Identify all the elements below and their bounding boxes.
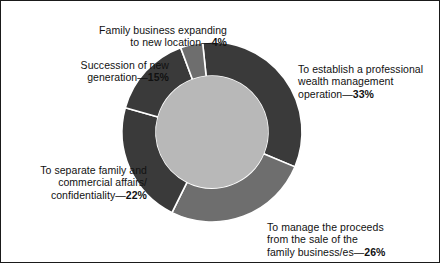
donut-chart: Family business expanding to new locatio… (1, 1, 440, 263)
slice-label-establish-professional-wealth-management: To establish a professional wealth manag… (298, 50, 438, 100)
slice-label-separator: — (201, 36, 212, 48)
slice-label-manage-proceeds-sale-family-business: To manage the proceeds from the sale of … (267, 208, 437, 258)
slice-label-value: 4% (212, 36, 227, 48)
slice-label-value: 22% (126, 189, 147, 201)
slice-label-value: 15% (148, 71, 169, 83)
donut-inner-circle (156, 76, 268, 188)
slice-label-succession-of-new-generation: Succession of new generation—15% (29, 46, 169, 84)
slice-label-separator: — (115, 189, 126, 201)
slice-label-value: 26% (364, 246, 385, 258)
slice-label-separator: — (354, 246, 365, 258)
slice-label-value: 33% (353, 88, 374, 100)
slice-label-separator: — (137, 71, 148, 83)
slice-label-separate-family-commercial-affairs: To separate family and commercial affair… (7, 151, 147, 201)
slice-label-separator: — (342, 88, 353, 100)
chart-figure: Family business expanding to new locatio… (0, 0, 440, 263)
slice-label-family-business-expanding-new-location: Family business expanding to new locatio… (59, 11, 227, 49)
